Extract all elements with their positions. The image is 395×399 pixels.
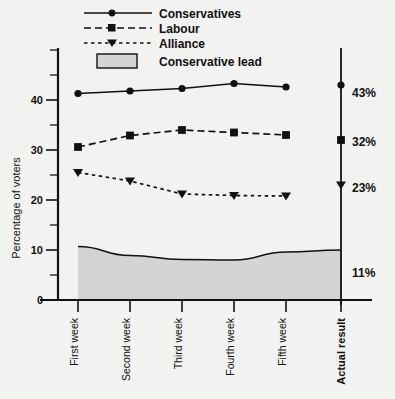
- legend-swatch-conservative-lead: [97, 54, 137, 68]
- data-point-labour: [230, 129, 238, 137]
- poll-trend-chart: 0 10 20 30 40 Percentage of voters First…: [0, 0, 395, 399]
- legend-item-alliance[interactable]: Alliance: [84, 37, 205, 51]
- legend-marker-circle-icon: [109, 10, 116, 17]
- data-point-labour: [337, 136, 345, 144]
- x-tick-label-first-week: First week: [68, 317, 80, 366]
- chart-legend: Conservatives Labour Alliance Conservati…: [84, 7, 262, 69]
- data-point-conservatives: [74, 90, 81, 97]
- chart-canvas: 0 10 20 30 40 Percentage of voters First…: [0, 0, 395, 399]
- x-tick-label-fifth-week: Fifth week: [276, 317, 288, 366]
- y-tick-label-10: 10: [31, 244, 43, 256]
- y-tick-label-30: 30: [31, 144, 43, 156]
- legend-item-labour[interactable]: Labour: [84, 22, 200, 36]
- legend-label-conservative-lead: Conservative lead: [159, 55, 262, 69]
- series-markers-alliance: [73, 169, 346, 201]
- legend-label-conservatives: Conservatives: [159, 7, 241, 21]
- data-point-alliance: [177, 190, 187, 198]
- legend-label-alliance: Alliance: [159, 37, 205, 51]
- annotation-lead-result: 11%: [352, 266, 376, 280]
- data-point-conservatives: [126, 87, 133, 94]
- legend-marker-square-icon: [108, 24, 116, 32]
- annotation-conservatives-result: 43%: [352, 86, 376, 100]
- data-point-alliance: [281, 192, 291, 200]
- x-axis-ticks: [78, 300, 341, 312]
- data-point-labour: [282, 131, 290, 139]
- data-point-conservatives: [178, 85, 185, 92]
- y-axis-title: Percentage of voters: [10, 157, 22, 259]
- x-tick-label-third-week: Third week: [172, 317, 184, 369]
- data-point-alliance: [336, 181, 346, 189]
- data-point-labour: [126, 132, 134, 140]
- data-point-conservatives: [230, 80, 237, 87]
- y-axis-minor-ticks: [50, 50, 58, 275]
- data-point-alliance: [73, 169, 83, 177]
- legend-item-conservatives[interactable]: Conservatives: [84, 7, 241, 21]
- annotation-alliance-result: 23%: [352, 181, 376, 195]
- x-tick-label-actual-result: Actual result: [335, 318, 347, 385]
- annotation-labour-result: 32%: [352, 135, 376, 149]
- series-markers-conservatives: [74, 80, 344, 97]
- y-tick-label-40: 40: [31, 94, 43, 106]
- y-axis-major-ticks: [46, 100, 58, 300]
- y-tick-label-20: 20: [31, 194, 43, 206]
- x-tick-label-second-week: Second week: [120, 317, 132, 381]
- data-point-labour: [74, 143, 82, 151]
- legend-label-labour: Labour: [159, 22, 200, 36]
- x-tick-label-fourth-week: Fourth week: [224, 317, 236, 376]
- data-point-conservatives: [282, 83, 289, 90]
- legend-item-conservative-lead[interactable]: Conservative lead: [97, 54, 262, 69]
- data-point-conservatives: [337, 81, 344, 88]
- data-point-labour: [178, 126, 186, 134]
- y-tick-label-0: 0: [37, 294, 43, 306]
